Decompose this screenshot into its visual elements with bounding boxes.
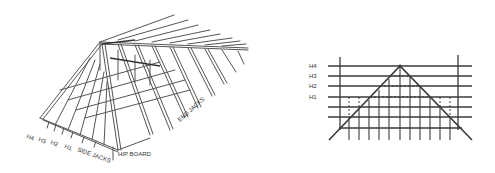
label-h1: H1 [64, 143, 74, 151]
isometric-roof-diagram: H4 H3 H2 H1 SIDE JACKS HIP BOARD END JAC… [0, 0, 250, 173]
label-h3: H3 [309, 73, 317, 79]
label-h4: H4 [309, 63, 317, 69]
label-h1: H1 [309, 94, 317, 100]
label-h4: H4 [26, 133, 36, 141]
isometric-roof-drawing: H4 H3 H2 H1 SIDE JACKS HIP BOARD END JAC… [0, 0, 250, 173]
label-hip-board: HIP BOARD [118, 151, 152, 157]
label-h2: H2 [309, 83, 317, 89]
label-h3: H3 [38, 136, 48, 144]
elevation-roof-diagram: H4 H3 H2 H1 [290, 0, 495, 173]
label-h2: H2 [50, 139, 60, 147]
label-side-jacks: SIDE JACKS [77, 146, 112, 164]
elevation-roof-drawing: H4 H3 H2 H1 [290, 0, 495, 173]
